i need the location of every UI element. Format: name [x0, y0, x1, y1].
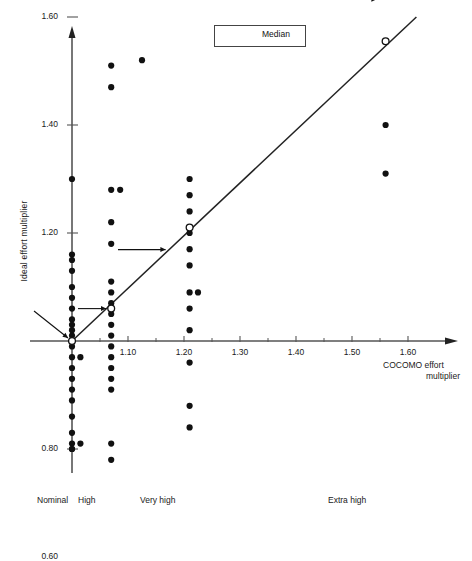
data-point [187, 424, 193, 430]
x-tick-label: 1.10 [111, 347, 145, 357]
data-point [108, 187, 114, 193]
median-trend-line [72, 17, 416, 341]
data-point [69, 316, 75, 322]
data-point [187, 327, 193, 333]
median-marker [382, 38, 389, 45]
category-label-high: High [78, 495, 95, 505]
data-point [139, 57, 145, 63]
data-point [69, 257, 75, 263]
data-point [187, 246, 193, 252]
median-arrow-head [371, 0, 376, 2]
data-point [69, 284, 75, 290]
data-point [187, 403, 193, 409]
data-point [108, 333, 114, 339]
axes-group [30, 0, 458, 525]
data-point [69, 387, 75, 393]
x-tick-label: 1.40 [279, 347, 313, 357]
median-marker [108, 305, 115, 312]
data-point [187, 306, 193, 312]
x-axis-title-line2: multiplier [383, 371, 469, 382]
data-point [69, 397, 75, 403]
data-point [69, 441, 75, 447]
data-point [69, 414, 75, 420]
category-label-extra-high: Extra high [328, 495, 366, 505]
y-tick-label: 1.60 [28, 11, 58, 21]
category-label-nominal: Nominal [37, 495, 68, 505]
data-point [108, 441, 114, 447]
category-label-very-high: Very high [140, 495, 175, 505]
data-point [108, 279, 114, 285]
data-point [69, 365, 75, 371]
median-arrow-shaft [34, 311, 68, 338]
data-point [69, 327, 75, 333]
x-tick-label: 1.30 [223, 347, 257, 357]
data-point [108, 387, 114, 393]
data-point [117, 187, 123, 193]
median-arrow-head [160, 247, 165, 252]
data-point [77, 354, 83, 360]
data-point [383, 122, 389, 128]
data-point [69, 295, 75, 301]
data-point [195, 289, 201, 295]
data-points-group [69, 0, 389, 525]
data-point [69, 176, 75, 182]
y-tick-label: 1.40 [28, 119, 58, 129]
median-line-group [72, 17, 416, 341]
x-tick-label: 1.20 [167, 347, 201, 357]
data-point [69, 354, 75, 360]
data-point [108, 365, 114, 371]
data-point [187, 360, 193, 366]
data-point [69, 322, 75, 328]
median-arrow-group [34, 0, 377, 338]
data-point [108, 219, 114, 225]
y-axis-arrowhead [69, 26, 76, 38]
data-point [69, 252, 75, 258]
legend-label: Median [262, 29, 290, 39]
data-point [108, 289, 114, 295]
data-point [187, 192, 193, 198]
data-point [108, 241, 114, 247]
data-point [108, 84, 114, 90]
data-point [69, 446, 75, 452]
x-axis-title: COCOMO effort multiplier [383, 360, 469, 382]
data-point [108, 63, 114, 69]
data-point [187, 262, 193, 268]
data-point [69, 306, 75, 312]
y-axis-title: Ideal effort multiplier [19, 171, 29, 311]
data-point [77, 441, 83, 447]
data-point [69, 268, 75, 274]
data-point [187, 289, 193, 295]
x-tick-label: 1.60 [391, 347, 425, 357]
data-point [383, 171, 389, 177]
data-point [69, 376, 75, 382]
x-axis-title-line1: COCOMO effort [383, 360, 444, 370]
data-point [187, 208, 193, 214]
x-tick-label: 1.50 [335, 347, 369, 357]
data-point [108, 376, 114, 382]
y-tick-label: 0.60 [28, 551, 58, 561]
data-point [108, 322, 114, 328]
data-point [69, 430, 75, 436]
median-marker [186, 224, 193, 231]
median-marker [69, 338, 76, 345]
y-tick-label: 0.80 [28, 443, 58, 453]
data-point [187, 176, 193, 182]
legend-box [214, 25, 306, 47]
x-axis-arrowhead [445, 338, 458, 345]
y-tick-label: 1.20 [28, 227, 58, 237]
data-point [108, 457, 114, 463]
